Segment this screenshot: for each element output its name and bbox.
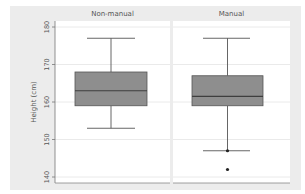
y-tick-label: 150 xyxy=(43,133,51,145)
y-axis-title: Height (cm) xyxy=(30,81,38,123)
y-tick-label: 180 xyxy=(43,21,51,33)
y-tick-label: 170 xyxy=(43,58,51,70)
panel-header: Manual xyxy=(219,10,244,18)
y-tick-label: 140 xyxy=(43,171,51,183)
panel-header: Non-manual xyxy=(91,10,134,18)
y-tick-label: 160 xyxy=(43,96,51,108)
box-plot-chart: Non-manualManual140150160170180Height (c… xyxy=(0,0,305,194)
iqr-box xyxy=(192,76,263,106)
outlier-point xyxy=(226,149,229,152)
iqr-box xyxy=(75,72,147,106)
outlier-point xyxy=(226,168,229,171)
